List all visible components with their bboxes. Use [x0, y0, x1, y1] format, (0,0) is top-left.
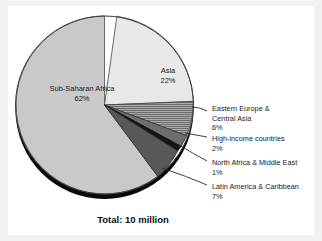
callout-high-income-line1: High-income countries — [212, 134, 285, 144]
slice-label-sub-saharan-africa-value: 62% — [30, 94, 134, 104]
chart-figure: Sub-Saharan Africa 62% Asia 22% Eastern … — [0, 0, 322, 241]
slice-label-sub-saharan-africa-name: Sub-Saharan Africa — [30, 84, 134, 94]
callout-label-high-income-countries: High-income countries 2% — [212, 134, 285, 153]
callout-label-eastern-europe-central-asia: Eastern Europe & Central Asia 6% — [212, 104, 270, 133]
callout-eastern-europe-line1: Eastern Europe & — [212, 104, 270, 114]
callout-eastern-europe-line2: Central Asia — [212, 114, 270, 124]
slice-label-asia-value: 22% — [140, 76, 196, 86]
callout-north-africa-line1: North Africa & Middle East — [212, 158, 297, 168]
slice-label-sub-saharan-africa: Sub-Saharan Africa 62% — [30, 84, 134, 103]
slice-label-asia: Asia 22% — [140, 66, 196, 85]
chart-total-caption: Total: 10 million — [8, 214, 258, 225]
pie-chart-plot-area: Sub-Saharan Africa 62% Asia 22% Eastern … — [8, 6, 314, 235]
leader-line-north-africa — [179, 145, 207, 161]
callout-label-latin-america-caribbean: Latin America & Caribbean 7% — [212, 182, 299, 201]
leader-line-latin-america — [162, 168, 207, 185]
callout-label-north-africa-middle-east: North Africa & Middle East 1% — [212, 158, 297, 177]
callout-latin-america-line1: Latin America & Caribbean — [212, 182, 299, 192]
leader-line-eastern-europe — [192, 107, 207, 111]
callout-high-income-value: 2% — [212, 144, 285, 154]
callout-north-africa-value: 1% — [212, 168, 297, 178]
callout-eastern-europe-value: 6% — [212, 123, 270, 133]
slice-label-asia-name: Asia — [140, 66, 196, 76]
callout-latin-america-value: 7% — [212, 192, 299, 202]
